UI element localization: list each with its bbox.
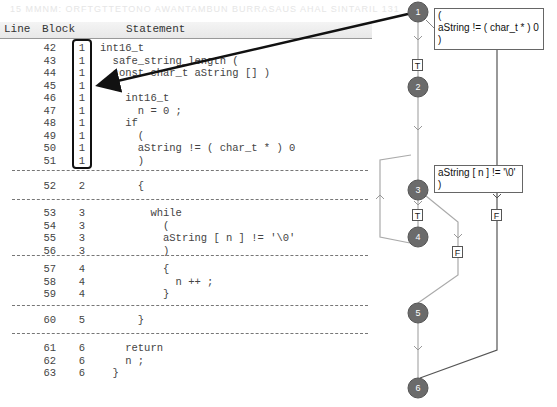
node-3[interactable]: 3 bbox=[408, 180, 428, 200]
node-6[interactable]: 6 bbox=[408, 378, 428, 398]
node-4-label: 4 bbox=[415, 232, 420, 242]
node-4[interactable]: 4 bbox=[408, 227, 428, 247]
node-2[interactable]: 2 bbox=[408, 77, 428, 97]
node-5-label: 5 bbox=[415, 308, 420, 318]
node-6-label: 6 bbox=[415, 383, 420, 393]
node-1[interactable]: 1 bbox=[408, 2, 428, 22]
edge-4-3-loop bbox=[380, 155, 411, 243]
node-3-condition-box: aString [ n ] != '\0' ) bbox=[434, 165, 523, 193]
node-1-condition-box: ( aString != ( char_t * ) 0 ) bbox=[434, 8, 544, 50]
true-label-node-3: T bbox=[412, 209, 423, 221]
false-label-node-1: F bbox=[491, 209, 502, 221]
true-label-node-1: T bbox=[412, 59, 423, 71]
annotation-arrow bbox=[100, 14, 408, 85]
false-label-node-3: F bbox=[452, 246, 463, 258]
node-2-label: 2 bbox=[415, 82, 420, 92]
edge-1-6-false bbox=[420, 50, 497, 378]
node-1-label: 1 bbox=[415, 7, 420, 17]
control-flow-graph: 1 2 3 4 5 6 bbox=[0, 0, 557, 407]
node-3-label: 3 bbox=[415, 185, 420, 195]
node-5[interactable]: 5 bbox=[408, 303, 428, 323]
